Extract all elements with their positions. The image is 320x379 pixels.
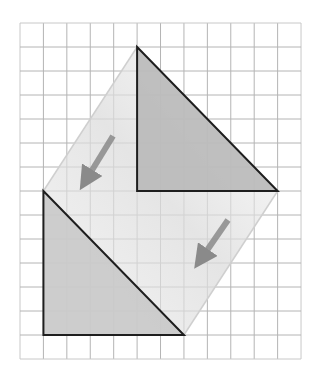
translation-diagram [0,0,320,379]
